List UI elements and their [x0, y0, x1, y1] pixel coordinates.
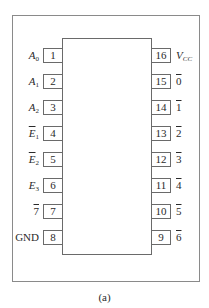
pin-15-label: 0: [176, 74, 182, 89]
pin-6-box: 6: [43, 178, 63, 193]
pin-4-label: E1: [29, 126, 39, 145]
pin-7-label: 7: [34, 204, 40, 219]
pin-14-label: 1: [176, 100, 182, 115]
pin-9-box: 9: [151, 230, 171, 245]
pin-7-box: 7: [43, 204, 63, 219]
figure-caption: (a): [0, 291, 209, 303]
pin-10-box: 10: [151, 204, 171, 219]
pin-5-label: E2: [29, 152, 39, 171]
pin-1-box: 1: [43, 48, 63, 63]
pin-16-label: VCC: [176, 48, 192, 67]
ic-body: [62, 38, 152, 255]
pin-12-box: 12: [151, 152, 171, 167]
pin-3-box: 3: [43, 100, 63, 115]
pin-13-box: 13: [151, 126, 171, 141]
pin-5-box: 5: [43, 152, 63, 167]
pin-8-box: 8: [43, 230, 63, 245]
pin-2-box: 2: [43, 74, 63, 89]
pin-13-label: 2: [176, 126, 182, 141]
pin-16-box: 16: [151, 48, 171, 63]
pin-15-box: 15: [151, 74, 171, 89]
pin-6-label: E3: [29, 178, 39, 197]
pin-1-label: A0: [29, 48, 39, 67]
pin-9-label: 6: [176, 230, 182, 245]
pin-4-box: 4: [43, 126, 63, 141]
pin-12-label: 3: [176, 152, 182, 167]
pin-11-label: 4: [176, 178, 182, 193]
pin-2-label: A1: [29, 74, 39, 93]
pin-11-box: 11: [151, 178, 171, 193]
pin-14-box: 14: [151, 100, 171, 115]
pin-10-label: 5: [176, 204, 182, 219]
pin-8-label: GND: [15, 230, 39, 245]
pin-3-label: A2: [29, 100, 39, 119]
